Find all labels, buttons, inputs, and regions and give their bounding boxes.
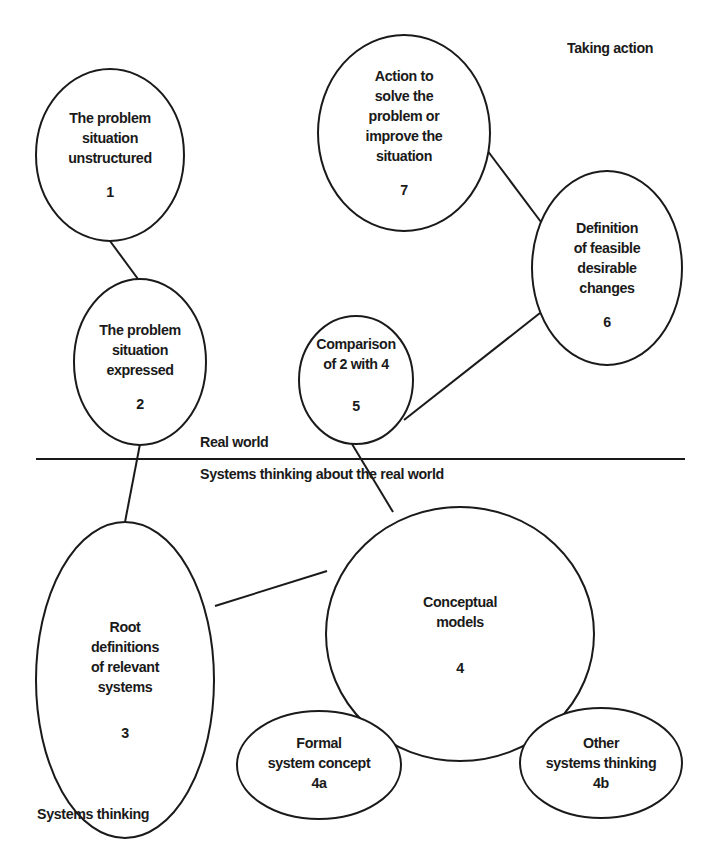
node-4-line: Conceptual xyxy=(423,592,497,612)
node-4: Conceptual models 4 xyxy=(386,590,533,680)
edge-5-6 xyxy=(404,313,540,420)
node-7-line: situation xyxy=(376,146,432,166)
node-3-line: definitions xyxy=(91,637,159,657)
node-1-line: The problem xyxy=(69,108,151,128)
node-1-line: situation xyxy=(82,128,138,148)
node-6: Definition of feasible desirable changes… xyxy=(540,210,674,340)
node-2-line: situation xyxy=(112,340,168,360)
node-3-line: of relevant xyxy=(91,657,159,677)
node-5-line: of 2 with 4 xyxy=(323,354,389,374)
label-real-world: Real world xyxy=(200,433,268,451)
node-4b: Other systems thinking 4b xyxy=(530,730,672,796)
node-1-number: 1 xyxy=(106,182,114,202)
label-systems-thinking-about-real-world: Systems thinking about the real world xyxy=(200,465,444,483)
node-6-line: Definition xyxy=(576,218,638,238)
node-3-line: Root xyxy=(109,617,140,637)
node-7-number: 7 xyxy=(400,180,408,200)
node-4-line: models xyxy=(436,612,484,632)
node-6-line: of feasible xyxy=(574,238,640,258)
node-7-line: problem or xyxy=(369,106,440,126)
node-7: Action to solve the problem or improve t… xyxy=(327,58,482,208)
node-3-number: 3 xyxy=(121,723,129,743)
node-2-line: expressed xyxy=(106,360,173,380)
node-4a-line: Formal xyxy=(296,733,341,753)
node-4b-line: Other xyxy=(583,733,619,753)
node-1-line: unstructured xyxy=(68,148,152,168)
node-2-line: The problem xyxy=(99,320,181,340)
node-1: The problem situation unstructured 1 xyxy=(42,100,178,210)
node-4b-number: 4b xyxy=(593,773,609,793)
edge-6-7 xyxy=(487,150,541,222)
node-5-number: 5 xyxy=(352,396,360,416)
edge-2-3 xyxy=(125,444,140,522)
node-6-line: desirable xyxy=(577,258,636,278)
node-7-line: improve the xyxy=(366,126,443,146)
node-4a-number: 4a xyxy=(311,773,326,793)
node-3: Root definitions of relevant systems 3 xyxy=(47,600,203,760)
node-6-number: 6 xyxy=(603,312,611,332)
edge-1-2 xyxy=(110,241,138,279)
node-4b-line: systems thinking xyxy=(546,753,657,773)
node-3-line: systems xyxy=(98,677,153,697)
label-systems-thinking: Systems thinking xyxy=(37,805,149,823)
node-4a-line: system concept xyxy=(268,753,371,773)
node-5-line: Comparison xyxy=(316,334,396,354)
node-7-line: solve the xyxy=(375,86,434,106)
edge-3-4 xyxy=(215,571,327,606)
node-7-line: Action to xyxy=(375,66,433,86)
node-5: Comparison of 2 with 4 5 xyxy=(304,335,407,415)
label-taking-action: Taking action xyxy=(567,39,653,57)
node-4-number: 4 xyxy=(456,658,464,678)
node-2: The problem situation expressed 2 xyxy=(79,312,200,422)
node-2-number: 2 xyxy=(136,394,144,414)
node-4a: Formal system concept 4a xyxy=(250,730,388,796)
node-6-line: changes xyxy=(579,278,634,298)
